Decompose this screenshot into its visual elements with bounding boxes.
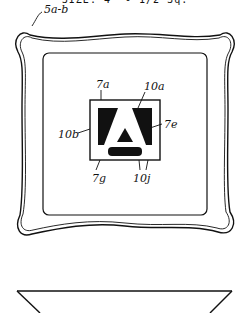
label-10j: 10j [133, 172, 151, 185]
tray-side-view [17, 291, 232, 313]
tile-dark-left [98, 108, 118, 145]
label-5a-b: 5a-b [44, 3, 68, 16]
tile-dark-right [132, 108, 152, 145]
label-10a: 10a [144, 80, 165, 93]
patent-drawing: 5a-b 7a 10a 10b 7e 7g 10j [0, 0, 250, 313]
letter-a-tile [98, 108, 152, 156]
tile-dark-triangle [117, 128, 133, 142]
label-10b: 10b [58, 128, 79, 141]
label-7a: 7a [96, 78, 110, 91]
tile-dark-bottom [108, 147, 142, 156]
label-7g: 7g [92, 172, 106, 185]
label-7e: 7e [164, 118, 178, 131]
